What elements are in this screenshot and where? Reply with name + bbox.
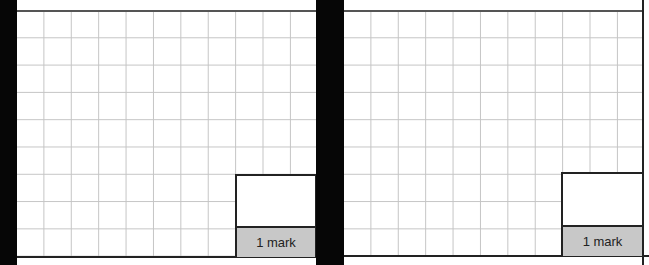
answer-space-right[interactable] bbox=[563, 174, 642, 227]
answer-box-left[interactable]: 1 mark bbox=[235, 174, 317, 257]
answer-panel-left: 1 mark bbox=[17, 0, 316, 265]
mark-label-left: 1 mark bbox=[237, 228, 315, 257]
mark-label-right: 1 mark bbox=[563, 227, 642, 256]
answer-space-left[interactable] bbox=[237, 176, 315, 228]
left-edge-bar bbox=[0, 0, 17, 265]
grid-top-border-right bbox=[344, 10, 643, 12]
answer-panel-right: 1 mark bbox=[344, 0, 649, 265]
grid-top-border-left bbox=[17, 10, 316, 12]
answer-box-right[interactable]: 1 mark bbox=[561, 172, 644, 256]
center-separator-bar bbox=[316, 0, 344, 265]
